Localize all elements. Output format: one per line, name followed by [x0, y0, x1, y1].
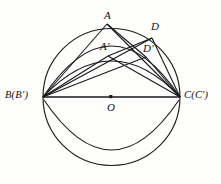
label-point-b: B(B′)	[5, 90, 28, 101]
segment-ba	[43, 24, 107, 97]
geometry-figure: A A′ D D′ B(B′) C(C′) O	[0, 0, 221, 184]
upper-arc-secondary	[43, 61, 180, 97]
label-point-d: D	[151, 21, 159, 32]
label-point-a-prime: A′	[100, 41, 110, 52]
label-point-c: C(C′)	[184, 90, 208, 101]
center-point-marker	[109, 95, 112, 98]
segment-d-prime-c	[146, 57, 180, 97]
label-point-a: A	[104, 10, 111, 21]
segment-a-prime-c	[108, 56, 180, 97]
label-point-o: O	[107, 102, 115, 113]
segment-bd	[43, 38, 152, 97]
label-point-d-prime: D′	[143, 43, 154, 54]
